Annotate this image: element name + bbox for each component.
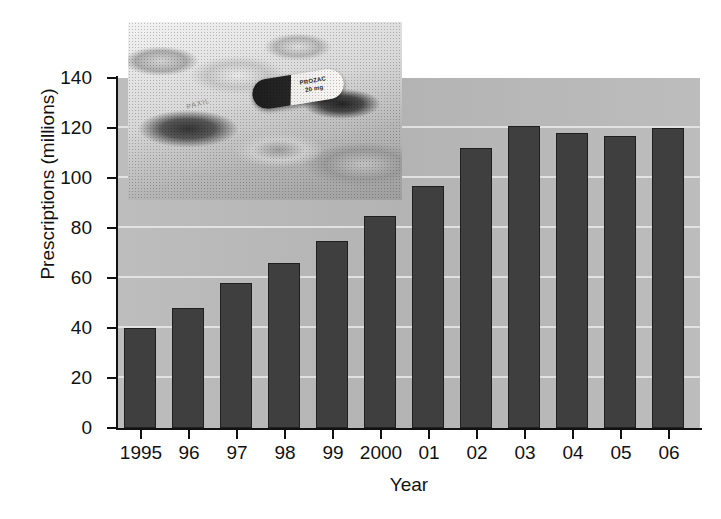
bar-99[interactable] — [316, 241, 348, 429]
bar-98[interactable] — [268, 263, 300, 428]
x-tick-1995 — [140, 430, 142, 439]
y-tick-60 — [107, 277, 118, 279]
x-tick-97 — [236, 430, 238, 439]
bar-02[interactable] — [460, 148, 492, 428]
capsule-label: PROZAC 20 mg — [288, 72, 338, 96]
bar-01[interactable] — [412, 186, 444, 429]
y-tick-label-20: 20 — [46, 367, 92, 389]
y-tick-0 — [107, 427, 118, 429]
x-tick-02 — [476, 430, 478, 439]
x-tick-99 — [332, 430, 334, 439]
y-tick-80 — [107, 227, 118, 229]
bar-06[interactable] — [652, 128, 684, 428]
y-tick-label-0: 0 — [46, 417, 92, 439]
x-tick-03 — [524, 430, 526, 439]
prozac-pills-photograph: PAXIL PROZAC 20 mg — [128, 22, 402, 200]
x-tick-98 — [284, 430, 286, 439]
bar-chart-figure: PAXIL PROZAC 20 mg 140 120 100 80 60 40 … — [0, 0, 721, 519]
bar-97[interactable] — [220, 283, 252, 428]
x-tick-01 — [428, 430, 430, 439]
x-axis-line — [116, 428, 702, 430]
y-tick-140 — [107, 77, 118, 79]
y-tick-20 — [107, 377, 118, 379]
photo-content — [128, 22, 402, 200]
bar-96[interactable] — [172, 308, 204, 428]
bar-04[interactable] — [556, 133, 588, 428]
x-tick-label-06: 06 — [639, 442, 699, 464]
bar-03[interactable] — [508, 126, 540, 429]
x-tick-2000 — [380, 430, 382, 439]
y-tick-40 — [107, 327, 118, 329]
y-tick-100 — [107, 177, 118, 179]
bar-05[interactable] — [604, 136, 636, 429]
x-axis-title: Year — [118, 474, 700, 496]
x-tick-05 — [620, 430, 622, 439]
x-tick-06 — [668, 430, 670, 439]
y-axis-title: Prescriptions (millions) — [37, 44, 59, 324]
bar-1995[interactable] — [124, 328, 156, 428]
x-tick-04 — [572, 430, 574, 439]
bar-2000[interactable] — [364, 216, 396, 429]
x-tick-96 — [188, 430, 190, 439]
y-tick-120 — [107, 127, 118, 129]
